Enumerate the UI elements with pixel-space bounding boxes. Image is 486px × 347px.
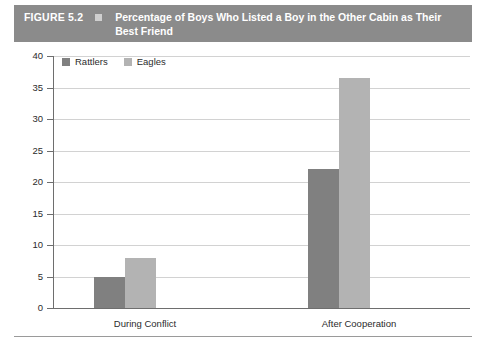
legend-item-eagles: Eagles (124, 57, 166, 67)
legend-swatch-rattlers-icon (62, 58, 70, 66)
y-tick-label-0: 0 (13, 303, 43, 313)
bar-chart: 40 35 30 25 20 15 10 5 0 Rattlers Eagles… (0, 46, 486, 318)
gridline-35 (54, 88, 470, 89)
bottom-divider (14, 336, 472, 337)
figure-header-band: FIGURE 5.2 Percentage of Boys Who Listed… (14, 5, 472, 42)
y-tick-label-35: 35 (13, 83, 43, 93)
legend-swatch-eagles-icon (124, 58, 132, 66)
y-tick-label-20: 20 (13, 177, 43, 187)
figure-number: FIGURE 5.2 (24, 11, 83, 24)
y-tick-30 (47, 119, 54, 120)
x-category-label-during-conflict: During Conflict (65, 318, 225, 329)
y-tick-0 (47, 308, 54, 309)
y-tick-label-40: 40 (13, 51, 43, 61)
bar-eagles-after-cooperation (339, 78, 370, 308)
plot-area (54, 56, 470, 308)
y-tick-25 (47, 151, 54, 152)
x-category-label-after-cooperation: After Cooperation (279, 318, 439, 329)
y-tick-20 (47, 182, 54, 183)
gridline-15 (54, 214, 470, 215)
legend-label-rattlers: Rattlers (75, 57, 108, 67)
gridline-20 (54, 182, 470, 183)
y-tick-label-10: 10 (13, 240, 43, 250)
legend-item-rattlers: Rattlers (62, 57, 108, 67)
y-tick-label-30: 30 (13, 114, 43, 124)
y-tick-label-5: 5 (13, 272, 43, 282)
figure-title: Percentage of Boys Who Listed a Boy in t… (115, 11, 453, 38)
chart-legend: Rattlers Eagles (62, 57, 166, 67)
bar-eagles-during-conflict (125, 258, 156, 308)
square-marker-icon (95, 14, 102, 21)
x-axis-line (53, 308, 470, 309)
y-tick-label-25: 25 (13, 146, 43, 156)
gridline-10 (54, 245, 470, 246)
legend-label-eagles: Eagles (137, 57, 166, 67)
bar-rattlers-after-cooperation (308, 169, 339, 308)
y-tick-label-15: 15 (13, 209, 43, 219)
y-tick-5 (47, 277, 54, 278)
y-tick-10 (47, 245, 54, 246)
y-tick-15 (47, 214, 54, 215)
gridline-30 (54, 119, 470, 120)
gridline-25 (54, 151, 470, 152)
y-tick-35 (47, 88, 54, 89)
y-tick-40 (47, 56, 54, 57)
bar-rattlers-during-conflict (94, 277, 125, 309)
